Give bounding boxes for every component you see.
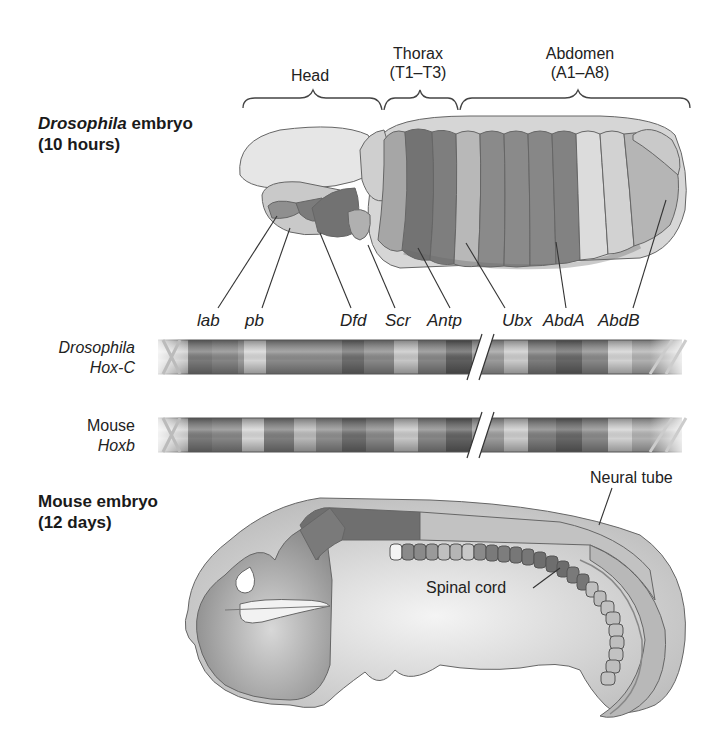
cluster-name-hoxb: Hoxb: [20, 436, 135, 456]
cluster-label-drosophila: Drosophila Hox-C: [20, 338, 135, 378]
neural-tube-label: Neural tube: [590, 469, 673, 487]
gene-pb: pb: [245, 311, 264, 331]
hoxb-bar: [150, 412, 690, 458]
cluster-label-mouse: Mouse Hoxb: [20, 416, 135, 456]
gene-dfd: Dfd: [340, 311, 366, 331]
gene-lab: lab: [197, 311, 220, 331]
gene-antp: Antp: [427, 311, 462, 331]
mouse-title: Mouse embryo (12 days): [38, 491, 158, 533]
mouse-title-text: Mouse embryo: [38, 492, 158, 511]
gene-scr: Scr: [385, 311, 411, 331]
gene-abdb: AbdB: [598, 311, 640, 331]
gene-ubx: Ubx: [502, 311, 532, 331]
thorax-brace: [384, 90, 458, 110]
cluster-name-hox-c: Hox-C: [20, 358, 135, 378]
cluster-species-drosophila: Drosophila: [20, 338, 135, 358]
neural-tube-leader: [599, 488, 612, 525]
gene-abda: AbdA: [543, 311, 585, 331]
drosophila-embryo: [240, 116, 687, 268]
mouse-age: (12 days): [38, 513, 112, 532]
hox-c-bar: [150, 334, 690, 380]
abdomen-brace: [460, 90, 690, 110]
region-braces: [243, 90, 690, 110]
spinal-cord-label: Spinal cord: [426, 579, 506, 597]
head-brace: [243, 90, 382, 110]
cluster-species-mouse: Mouse: [20, 416, 135, 436]
